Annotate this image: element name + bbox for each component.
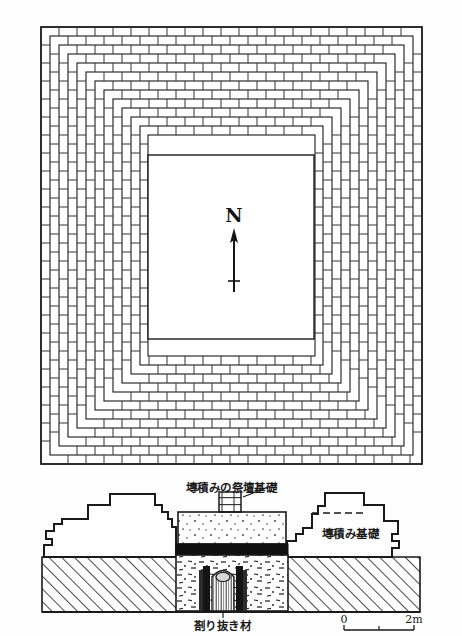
plan-brick-rings bbox=[41, 27, 422, 464]
brick-foundation-label: 塼積み基礎 bbox=[322, 527, 380, 541]
section-drawing bbox=[42, 492, 420, 612]
scale-bar-end-label: 2m bbox=[405, 613, 423, 626]
section-timber-cavity bbox=[216, 573, 230, 582]
section-timber-right-jamb bbox=[236, 566, 243, 611]
section-timber-left-shim bbox=[199, 570, 203, 611]
hollowed-timber-label: 剳り抜き材 bbox=[193, 619, 252, 633]
section-right-brick-mass bbox=[287, 493, 399, 557]
section-platform-slab bbox=[178, 512, 286, 544]
section-left-brick-mass bbox=[44, 494, 176, 557]
section-timber-left-jamb bbox=[203, 566, 210, 611]
section-altar-brick-block bbox=[219, 492, 241, 512]
section-black-band bbox=[176, 544, 288, 555]
plan-inner-court bbox=[148, 155, 314, 339]
section-timber-right-shim bbox=[243, 570, 247, 611]
archaeological-figure: N bbox=[0, 0, 462, 636]
north-arrow-label: N bbox=[225, 204, 242, 226]
scale-bar: 0 2m bbox=[341, 613, 424, 630]
figure-root: N bbox=[0, 0, 462, 636]
scale-bar-start-label: 0 bbox=[341, 613, 348, 626]
